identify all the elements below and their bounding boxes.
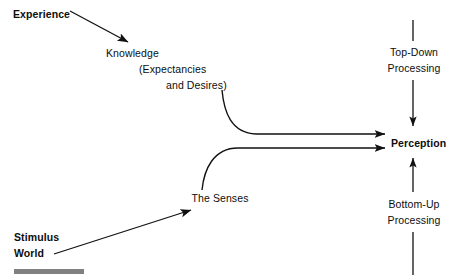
label-bottom-up-line1: Bottom-Up xyxy=(388,196,439,212)
node-stimulus: Stimulus xyxy=(14,229,59,245)
node-the-senses: The Senses xyxy=(191,190,248,206)
label-top-down-line2: Processing xyxy=(388,60,441,76)
diagram-canvas: Experience Knowledge (Expectancies and D… xyxy=(0,0,455,280)
edge-stimulus-to-senses xyxy=(54,210,191,254)
label-top-down-line1: Top-Down xyxy=(390,44,438,60)
node-expectancies: (Expectancies xyxy=(139,61,206,77)
diagram-connectors xyxy=(0,0,455,280)
node-experience: Experience xyxy=(13,6,70,22)
edge-senses-to-perception xyxy=(202,148,385,190)
node-knowledge: Knowledge xyxy=(106,45,159,61)
node-world: World xyxy=(14,245,44,261)
label-bottom-up-line2: Processing xyxy=(388,212,441,228)
accent-bar xyxy=(14,269,84,274)
node-desires: and Desires) xyxy=(166,77,227,93)
node-perception: Perception xyxy=(391,135,446,151)
edge-knowledge-to-perception xyxy=(222,90,385,134)
edge-experience-to-knowledge xyxy=(70,11,128,42)
